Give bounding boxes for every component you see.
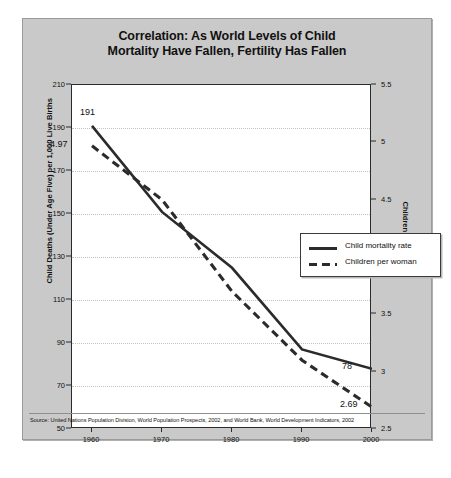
chart-title-line-2: Mortality Have Fallen, Fertility Has Fal… [23,44,431,59]
chart-legend: Child mortality rate Children per woman [300,233,441,277]
chart-figure: Correlation: As World Levels of Child Mo… [22,18,432,440]
y-axis-left: 210 190 170 150 130 110 90 70 50 [23,84,71,428]
data-label-fertility-end: 2.69 [340,399,358,409]
y-right-tick-3: 3 [381,366,385,375]
x-tick-1970: 1970 [153,435,170,444]
data-label-mortality-end: 78 [342,361,352,371]
y-right-tick-2-5: 2.5 [381,424,391,433]
chart-title-line-1: Correlation: As World Levels of Child [23,29,431,44]
legend-solid-line-icon [309,247,337,250]
plot-area: 191 4.97 78 2.69 Child mortality rate Ch… [71,84,371,428]
data-label-mortality-start: 191 [80,107,95,117]
y-left-tick-90: 90 [57,338,65,347]
data-label-fertility-start: 4.97 [50,139,68,149]
y-left-tick-170: 170 [52,166,65,175]
legend-label-child-mortality-rate: Child mortality rate [345,241,412,250]
legend-label-children-per-woman: Children per woman [345,257,417,266]
x-tick-1960: 1960 [83,435,100,444]
chart-title: Correlation: As World Levels of Child Mo… [23,29,431,59]
y-left-tick-150: 150 [52,209,65,218]
y-left-tick-50: 50 [57,424,65,433]
source-note: Source: United Nations Population Divisi… [30,417,426,423]
x-axis: 1960 1970 1980 1990 2000 [71,428,371,450]
y-left-tick-190: 190 [52,123,65,132]
y-left-tick-110: 110 [53,295,65,304]
y-left-tick-70: 70 [57,381,65,390]
y-left-tick-130: 130 [52,252,65,261]
x-tick-1980: 1980 [223,435,240,444]
y-right-tick-4-5: 4.5 [381,194,391,203]
y-left-tick-210: 210 [52,80,65,89]
x-tick-1990: 1990 [293,435,310,444]
y-right-tick-5-5: 5.5 [381,80,391,89]
y-right-tick-5: 5 [381,137,385,146]
y-right-tick-3-5: 3.5 [381,309,391,318]
legend-dashed-line-icon [309,263,337,266]
x-tick-2000: 2000 [363,435,380,444]
source-divider [29,413,425,414]
